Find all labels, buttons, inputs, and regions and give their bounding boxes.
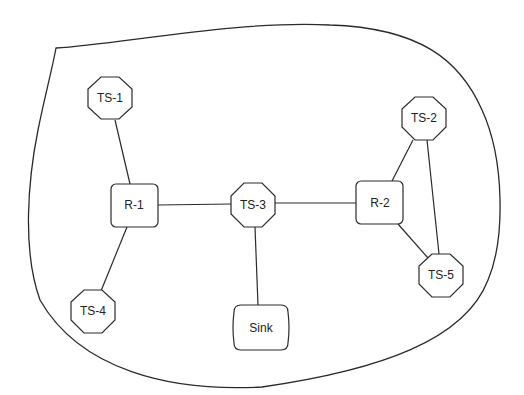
node-label: Sink bbox=[249, 321, 273, 335]
node-r-1[interactable]: R-1 bbox=[111, 184, 158, 227]
edge-r1-ts3 bbox=[158, 204, 231, 205]
node-label: TS-2 bbox=[411, 111, 437, 125]
network-diagram: TS-1 TS-2 TS-3 TS-4 TS-5 R-1 R-2 Sink bbox=[0, 0, 524, 395]
node-ts-2[interactable]: TS-2 bbox=[402, 97, 446, 140]
node-ts-5[interactable]: TS-5 bbox=[419, 254, 463, 297]
node-label: R-2 bbox=[370, 196, 390, 210]
node-label: TS-3 bbox=[240, 198, 266, 212]
edge-r1-ts4 bbox=[101, 227, 127, 291]
node-ts-3[interactable]: TS-3 bbox=[231, 183, 275, 227]
node-label: TS-5 bbox=[428, 268, 454, 282]
edge-ts1-r1 bbox=[115, 120, 130, 184]
edge-r2-ts5 bbox=[398, 224, 428, 258]
node-sink[interactable]: Sink bbox=[233, 305, 289, 350]
node-ts-1[interactable]: TS-1 bbox=[88, 77, 132, 119]
node-label: R-1 bbox=[124, 198, 144, 212]
node-label: TS-4 bbox=[80, 304, 106, 318]
edge-ts3-sink bbox=[255, 227, 258, 305]
edge-r2-ts2 bbox=[392, 140, 413, 181]
node-ts-4[interactable]: TS-4 bbox=[71, 290, 115, 333]
node-r-2[interactable]: R-2 bbox=[356, 181, 403, 224]
edge-ts2-ts5 bbox=[427, 140, 439, 254]
node-label: TS-1 bbox=[97, 91, 123, 105]
